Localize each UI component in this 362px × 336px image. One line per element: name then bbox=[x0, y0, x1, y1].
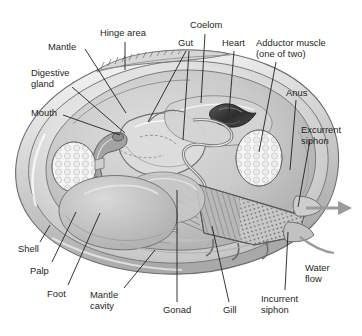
label-adductor-muscle: Adductor muscle (one of two) bbox=[256, 37, 326, 59]
label-excurrent-siphon: Excurrent siphon bbox=[301, 124, 341, 146]
label-coelom: Coelom bbox=[190, 19, 222, 30]
label-gill: Gill bbox=[223, 304, 237, 315]
label-digestive-gland: Digestive gland bbox=[31, 67, 70, 89]
label-shell: Shell bbox=[18, 243, 39, 254]
label-foot: Foot bbox=[47, 288, 66, 299]
label-gut: Gut bbox=[178, 37, 193, 48]
label-heart: Heart bbox=[222, 37, 245, 48]
label-hinge-area: Hinge area bbox=[100, 27, 146, 38]
label-incurrent-siphon: Incurrent siphon bbox=[261, 293, 298, 315]
label-mantle-cavity: Mantle cavity bbox=[90, 289, 118, 311]
label-gonad: Gonad bbox=[163, 304, 191, 315]
label-anus: Anus bbox=[286, 87, 307, 98]
label-mouth: Mouth bbox=[31, 107, 57, 118]
label-water-flow: Water flow bbox=[305, 262, 330, 284]
label-palp: Palp bbox=[30, 265, 49, 276]
bivalve-anatomy-figure: Hinge areaMantleGutCoelomHeartAdductor m… bbox=[0, 0, 362, 336]
label-mantle: Mantle bbox=[48, 41, 76, 52]
